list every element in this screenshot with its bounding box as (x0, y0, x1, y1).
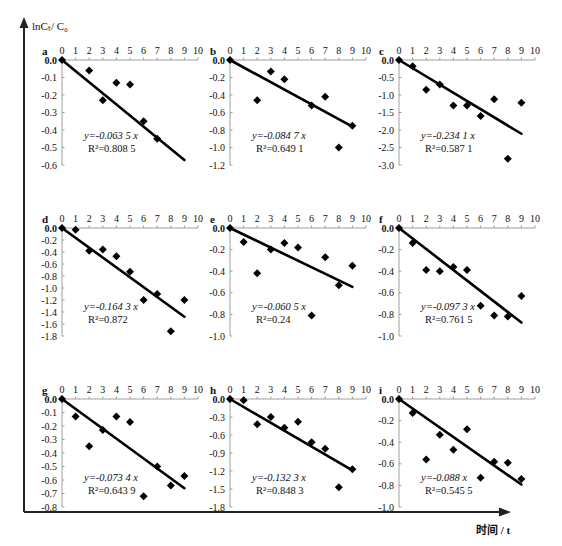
panel-c: c0123456789100.0-0.5-1.0-1.5-2.0-2.5-3.0… (378, 45, 540, 171)
r-squared: R²=0.545 5 (425, 485, 473, 496)
y-tick-label: -0.4 (41, 448, 57, 459)
data-point-diamond (153, 290, 161, 298)
x-tick-label: 9 (182, 45, 187, 56)
x-tick-label: 3 (268, 384, 273, 395)
r-squared: R²=0.587 1 (425, 143, 473, 154)
data-point-diamond (335, 144, 343, 152)
data-point-diamond (240, 238, 248, 246)
data-point-diamond (167, 327, 175, 335)
y-tick-label: -1.2 (209, 160, 225, 171)
fit-equation: y=-0.060 5 x (251, 301, 306, 312)
fit-equation: y=-0.063 5 x (83, 130, 138, 141)
x-tick-label: 10 (193, 213, 203, 224)
y-tick-label: -0.4 (378, 437, 394, 448)
data-point-diamond (140, 492, 148, 500)
data-point-diamond (240, 396, 248, 404)
y-tick-label: -0.4 (41, 247, 57, 258)
y-tick-label: 0.0 (213, 394, 226, 405)
x-tick-label: 4 (114, 45, 119, 56)
data-point-diamond (449, 263, 457, 271)
y-tick-label: 0.0 (382, 223, 395, 234)
x-tick-label: 6 (141, 45, 146, 56)
y-tick-label: -0.8 (209, 125, 225, 136)
regression-line (399, 60, 521, 134)
y-tick-label: 0.0 (382, 394, 395, 405)
x-tick-label: 6 (478, 213, 483, 224)
x-tick-label: 0 (60, 45, 65, 56)
y-tick-label: 0.0 (45, 394, 58, 405)
x-tick-label: 2 (424, 213, 429, 224)
x-tick-label: 6 (141, 384, 146, 395)
fit-equation: y=-0.073 4 x (83, 472, 138, 483)
x-tick-label: 2 (87, 45, 92, 56)
x-tick-label: 2 (255, 213, 260, 224)
x-tick-label: 6 (141, 213, 146, 224)
data-point-diamond (436, 431, 444, 439)
x-tick-label: 9 (350, 384, 355, 395)
y-tick-label: -2.0 (378, 125, 394, 136)
y-tick-label: -3.0 (378, 160, 394, 171)
y-tick-label: -0.5 (378, 72, 394, 83)
x-tick-label: 1 (410, 213, 415, 224)
data-point-diamond (477, 112, 485, 120)
y-tick-label: -0.2 (378, 415, 394, 426)
data-point-diamond (99, 96, 107, 104)
x-tick-label: 3 (100, 213, 105, 224)
x-tick-label: 10 (530, 384, 540, 395)
x-tick-label: 3 (437, 45, 442, 56)
data-point-diamond (335, 483, 343, 491)
panel-e: e0123456789100.0-0.2-0.4-0.6-0.8-1.0y=-0… (209, 213, 371, 342)
panel-g: g0123456789100.0-0.1-0.2-0.3-0.4-0.5-0.6… (41, 384, 203, 513)
x-tick-label: 3 (268, 45, 273, 56)
y-tick-label: -0.3 (41, 107, 57, 118)
x-tick-label: 9 (182, 384, 187, 395)
x-tick-label: 0 (60, 213, 65, 224)
x-tick-label: 2 (255, 384, 260, 395)
x-tick-label: 3 (437, 213, 442, 224)
x-tick-label: 10 (361, 384, 371, 395)
y-tick-label: -0.3 (209, 412, 225, 423)
data-point-diamond (477, 474, 485, 482)
data-point-diamond (253, 420, 261, 428)
x-tick-label: 7 (492, 384, 497, 395)
y-tick-label: -0.4 (209, 266, 225, 277)
x-tick-label: 1 (73, 213, 78, 224)
data-point-diamond (449, 446, 457, 454)
x-tick-label: 8 (336, 213, 341, 224)
y-tick-label: -0.1 (41, 407, 57, 418)
y-tick-label: -1.0 (41, 283, 57, 294)
data-point-diamond (477, 302, 485, 310)
x-tick-label: 8 (336, 384, 341, 395)
x-tick-label: 0 (228, 45, 233, 56)
x-tick-label: 5 (465, 45, 470, 56)
x-tick-label: 4 (114, 384, 119, 395)
y-tick-label: -0.4 (209, 90, 225, 101)
data-point-diamond (517, 99, 525, 107)
x-tick-label: 1 (241, 213, 246, 224)
y-tick-label: -0.3 (41, 434, 57, 445)
x-tick-label: 0 (397, 384, 402, 395)
y-tick-label: -1.0 (378, 331, 394, 342)
fit-equation: y=-0.132 3 x (251, 472, 306, 483)
x-tick-label: 5 (296, 213, 301, 224)
data-point-diamond (294, 243, 302, 251)
data-point-diamond (321, 93, 329, 101)
y-tick-label: -0.2 (41, 421, 57, 432)
data-point-diamond (436, 267, 444, 275)
x-tick-label: 5 (128, 45, 133, 56)
x-tick-label: 9 (350, 45, 355, 56)
x-tick-label: 4 (282, 213, 287, 224)
y-tick-label: -0.5 (41, 461, 57, 472)
x-tick-label: 10 (530, 213, 540, 224)
x-tick-label: 2 (255, 45, 260, 56)
x-tick-label: 1 (410, 45, 415, 56)
y-tick-label: -0.2 (378, 244, 394, 255)
panel-i: i0123456789100.0-0.2-0.4-0.6-0.8-1.0y=-0… (378, 384, 540, 513)
data-point-diamond (126, 81, 134, 89)
x-tick-label: 9 (182, 213, 187, 224)
y-tick-label: -1.2 (209, 466, 225, 477)
data-point-diamond (85, 442, 93, 450)
x-tick-label: 5 (465, 213, 470, 224)
x-tick-label: 7 (323, 213, 328, 224)
y-tick-label: -0.1 (41, 72, 57, 83)
